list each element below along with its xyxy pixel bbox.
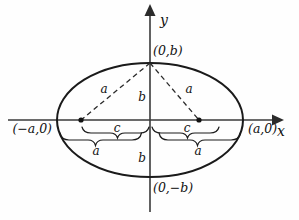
y-axis-arrow-icon [145, 4, 156, 16]
segment-label-focal-radius-left: a [100, 82, 107, 96]
brace-semi-major-left [60, 133, 142, 146]
vertex-label-right: (a,0) [248, 121, 277, 136]
vertex-label-top: (0,b) [153, 43, 183, 58]
vertex-label-left: (−a,0) [12, 121, 52, 136]
ellipse-diagram: y x (0,b) (0,−b) (−a,0) (a,0) a a b b c … [0, 0, 299, 220]
ellipse-figure-svg: y x (0,b) (0,−b) (−a,0) (a,0) a a b b c … [0, 0, 299, 220]
segment-label-semi-major-right: a [194, 144, 201, 158]
x-axis-label: x [277, 123, 285, 139]
y-axis-label: y [159, 12, 169, 28]
segment-label-focal-distance-right: c [184, 121, 191, 135]
focus-left-point [78, 117, 83, 122]
segment-label-semi-minor-lower: b [138, 151, 146, 165]
segment-label-focal-distance-left: c [114, 121, 121, 135]
segment-label-semi-minor-upper: b [138, 90, 146, 104]
vertex-label-bottom: (0,−b) [153, 180, 193, 195]
focus-right-point [196, 117, 201, 122]
segment-label-semi-major-left: a [92, 144, 99, 158]
segment-label-focal-radius-right: a [185, 82, 192, 96]
